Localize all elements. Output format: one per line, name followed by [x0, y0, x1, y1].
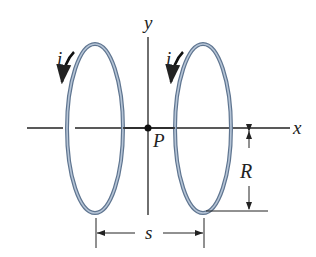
current-label-right: i	[166, 48, 171, 69]
x-axis-label: x	[292, 117, 302, 138]
radius-label: R	[239, 160, 252, 182]
two-loops-diagram: y x P i i R s	[0, 0, 316, 257]
point-p	[145, 125, 152, 132]
separation-label: s	[145, 222, 152, 243]
y-axis-label: y	[142, 12, 153, 33]
current-label-left: i	[57, 48, 62, 69]
point-label: P	[152, 130, 165, 151]
